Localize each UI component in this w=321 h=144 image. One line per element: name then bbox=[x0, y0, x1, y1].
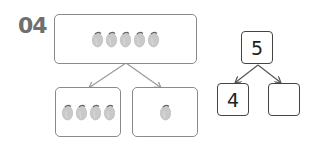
lemon-group-part-right bbox=[133, 103, 197, 121]
lemon-group-part-left bbox=[56, 103, 120, 121]
lemon-icon bbox=[75, 103, 88, 121]
lemon-icon bbox=[159, 103, 172, 121]
lemon-icon bbox=[103, 103, 116, 121]
lemon-icon bbox=[147, 30, 160, 48]
number-bond-part-left: 4 bbox=[217, 83, 249, 116]
lemon-icon bbox=[89, 103, 102, 121]
lemon-icon bbox=[119, 30, 132, 48]
number-bond-whole: 5 bbox=[241, 31, 273, 64]
part-picture-box-right bbox=[132, 87, 198, 137]
lemon-icon bbox=[61, 103, 74, 121]
number-bond-part-right-answer[interactable] bbox=[268, 83, 300, 116]
lemon-group-whole bbox=[55, 30, 196, 48]
lemon-icon bbox=[105, 30, 118, 48]
whole-picture-box bbox=[54, 14, 197, 64]
lemon-icon bbox=[91, 30, 104, 48]
lemon-icon bbox=[133, 30, 146, 48]
part-picture-box-left bbox=[55, 87, 121, 137]
